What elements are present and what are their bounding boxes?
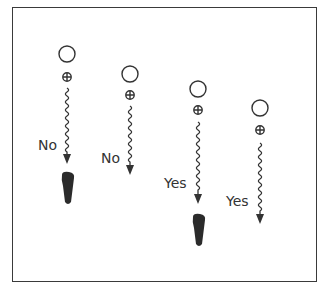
open-circle-icon	[122, 66, 138, 82]
label-yes-2: Yes	[226, 194, 249, 208]
foot-icon	[193, 214, 205, 246]
arrow-head-icon	[194, 194, 202, 204]
label-no-1: No	[38, 138, 57, 152]
open-circle-icon	[59, 46, 75, 62]
open-circle-icon	[252, 100, 268, 116]
arrow-head-icon	[256, 214, 264, 224]
arrow-head-icon	[63, 154, 71, 164]
label-yes-1: Yes	[164, 176, 187, 190]
open-circle-icon	[190, 81, 206, 97]
wavy-line	[128, 106, 131, 167]
wavy-line	[65, 88, 68, 156]
foot-icon	[62, 172, 74, 204]
wavy-line	[196, 122, 199, 196]
label-no-2: No	[101, 151, 120, 165]
arrow-head-icon	[126, 165, 134, 175]
wavy-line	[258, 143, 261, 216]
